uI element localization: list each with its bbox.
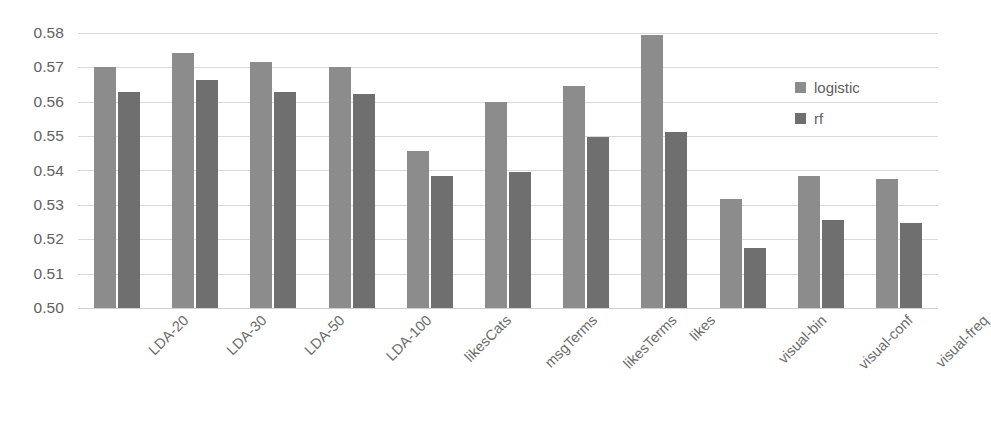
bar-logistic [172, 53, 194, 308]
y-axis-tick-label: 0.57 [33, 58, 64, 76]
bar-group [407, 33, 453, 308]
y-axis: 0.580.570.560.550.540.530.520.510.50 [0, 33, 72, 308]
bar-group [720, 33, 766, 308]
x-axis-tick-label: visual-bin [774, 312, 829, 367]
y-axis-tick-label: 0.53 [33, 196, 64, 214]
bar-rf [900, 223, 922, 308]
chart-legend: logistic rf [795, 72, 915, 134]
x-axis-tick-label: visual-freq [932, 312, 991, 371]
legend-swatch-icon [795, 113, 806, 124]
bar-rf [509, 172, 531, 308]
bar-group [563, 33, 609, 308]
bar-logistic [407, 151, 429, 308]
bar-logistic [94, 67, 116, 308]
y-axis-tick-label: 0.58 [33, 24, 64, 42]
x-axis-tick-label: LDA-100 [382, 312, 434, 364]
bar-group [94, 33, 140, 308]
bar-rf [744, 248, 766, 308]
bar-group [641, 33, 687, 308]
y-axis-tick-label: 0.54 [33, 162, 64, 180]
bar-rf [431, 176, 453, 308]
y-axis-tick-label: 0.52 [33, 230, 64, 248]
bar-logistic [563, 86, 585, 308]
x-axis-tick-label: LDA-30 [224, 312, 270, 358]
x-axis-tick-label: likes [687, 312, 719, 344]
bar-rf [822, 220, 844, 308]
bar-rf [118, 92, 140, 308]
legend-label: rf [814, 111, 823, 126]
y-axis-tick-label: 0.51 [33, 265, 64, 283]
legend-item-rf: rf [795, 103, 915, 134]
legend-item-logistic: logistic [795, 72, 915, 103]
bar-logistic [720, 199, 742, 308]
bar-logistic [250, 62, 272, 308]
bar-rf [353, 94, 375, 308]
bar-rf [587, 137, 609, 308]
x-axis-tick-label: LDA-20 [145, 312, 191, 358]
bar-logistic [485, 102, 507, 308]
bar-logistic [641, 35, 663, 308]
x-axis-tick-label: likesTerms [620, 312, 680, 372]
legend-swatch-icon [795, 82, 806, 93]
bar-rf [274, 92, 296, 308]
bar-rf [196, 80, 218, 308]
x-axis-labels: LDA-20LDA-30LDA-50LDA-100likesCatsmsgTer… [78, 308, 938, 425]
y-axis-tick-label: 0.55 [33, 127, 64, 145]
bar-rf [665, 132, 687, 308]
y-axis-tick-label: 0.50 [33, 299, 64, 317]
x-axis-tick-label: msgTerms [542, 312, 601, 371]
bar-group [250, 33, 296, 308]
bar-logistic [798, 176, 820, 308]
x-axis-tick-label: visual-conf [855, 312, 915, 372]
x-axis-tick-label: likesCats [461, 312, 514, 365]
legend-label: logistic [814, 80, 860, 95]
x-axis-tick-label: LDA-50 [302, 312, 348, 358]
bar-group [485, 33, 531, 308]
bar-group [329, 33, 375, 308]
bar-logistic [876, 179, 898, 308]
y-axis-tick-label: 0.56 [33, 93, 64, 111]
bar-group [172, 33, 218, 308]
bar-logistic [329, 67, 351, 308]
